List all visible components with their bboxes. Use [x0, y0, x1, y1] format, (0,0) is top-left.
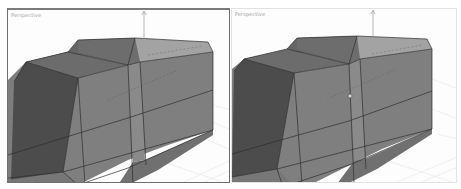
viewport-perspective-left[interactable]: Perspective	[7, 8, 230, 183]
vertex-marker-icon[interactable]	[348, 94, 352, 98]
mesh-render	[232, 9, 457, 183]
viewport-perspective-right[interactable]: Perspective	[231, 8, 457, 183]
mesh-render	[8, 10, 230, 183]
transform-gizmo-icon[interactable]	[371, 10, 375, 39]
transform-gizmo-icon[interactable]	[142, 11, 146, 40]
